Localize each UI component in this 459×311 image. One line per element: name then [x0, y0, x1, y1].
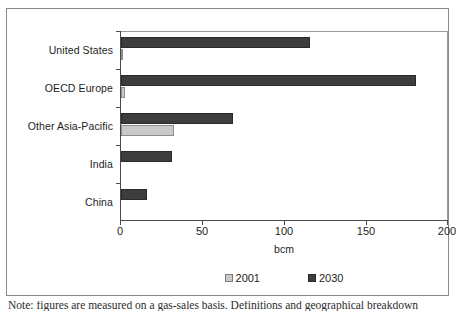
bar-group-other-asia-pacific: Other Asia-Pacific — [120, 107, 448, 145]
x-axis-tick-label-0: 0 — [117, 225, 123, 237]
figure-frame: United States OECD Europe Other Asia-Pac… — [6, 8, 449, 296]
y-axis-label-other-asia-pacific: Other Asia-Pacific — [28, 120, 113, 132]
y-axis-label-china: China — [85, 196, 113, 208]
legend: 2001 2030 — [120, 272, 448, 284]
legend-label-2001: 2001 — [236, 272, 260, 284]
legend-item-2001: 2001 — [225, 272, 260, 284]
y-axis-label-india: India — [90, 158, 113, 170]
legend-label-2030: 2030 — [319, 272, 343, 284]
bar-group-united-states: United States — [120, 31, 448, 69]
bar-oecd-europe-2030 — [121, 75, 416, 86]
bar-other-asia-pacific-2030 — [121, 113, 233, 124]
x-axis-title: bcm — [120, 243, 448, 255]
y-axis-label-united-states: United States — [49, 44, 113, 56]
bar-united-states-2001 — [121, 49, 123, 60]
bar-group-oecd-europe: OECD Europe — [120, 69, 448, 107]
legend-swatch-2001 — [225, 274, 233, 282]
legend-swatch-2030 — [308, 274, 316, 282]
x-axis-tick-label-200: 200 — [438, 225, 456, 237]
bar-oecd-europe-2001 — [121, 87, 125, 98]
bar-group-china: China — [120, 183, 448, 221]
bar-other-asia-pacific-2001 — [121, 125, 174, 136]
x-axis-tick-label-50: 50 — [196, 225, 208, 237]
x-axis-tick-label-150: 150 — [357, 225, 375, 237]
bar-group-india: India — [120, 145, 448, 183]
bar-india-2030 — [121, 151, 172, 162]
x-axis-tick-label-100: 100 — [275, 225, 293, 237]
figure: United States OECD Europe Other Asia-Pac… — [0, 0, 459, 311]
caption-clipped: Note: figures are measured on a gas-sale… — [0, 301, 459, 311]
bar-china-2030 — [121, 189, 147, 200]
caption-text: Note: figures are measured on a gas-sale… — [8, 301, 418, 311]
legend-item-2030: 2030 — [308, 272, 343, 284]
plot-area: United States OECD Europe Other Asia-Pac… — [120, 31, 448, 221]
y-axis-label-oecd-europe: OECD Europe — [45, 82, 113, 94]
bar-united-states-2030 — [121, 37, 310, 48]
y-axis-tick — [116, 31, 120, 32]
